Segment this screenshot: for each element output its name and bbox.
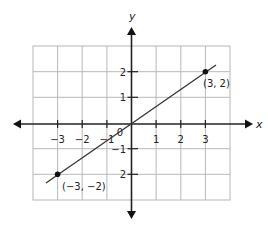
point-label-3-2: (3, 2): [203, 78, 230, 89]
arrow-right-icon: [245, 120, 253, 129]
coordinate-plane: y x −3 −2 −1 1 2 3 0 2 1 −1 2 (3, 2) (−3…: [0, 0, 268, 227]
x-tick-label: 1: [153, 134, 159, 145]
y-tick-label: 1: [120, 92, 126, 103]
x-axis-label: x: [255, 118, 263, 131]
x-tick-label: 3: [202, 134, 208, 145]
x-tick-label: −2: [75, 134, 90, 145]
point-3-2: [203, 69, 209, 75]
x-tick-label: 2: [178, 134, 184, 145]
point-label-neg3-neg2: (−3, −2): [62, 181, 106, 192]
y-tick-label: 2: [120, 67, 126, 78]
x-tick-label: −3: [50, 134, 65, 145]
y-tick-label: 2: [120, 169, 126, 180]
y-axis-label: y: [128, 10, 136, 23]
x-axis: [13, 120, 253, 129]
arrow-down-icon: [127, 211, 136, 219]
arrow-left-icon: [13, 120, 21, 129]
y-tick-label: −1: [111, 144, 126, 155]
arrow-up-icon: [127, 27, 136, 35]
point-neg3-neg2: [55, 172, 61, 178]
